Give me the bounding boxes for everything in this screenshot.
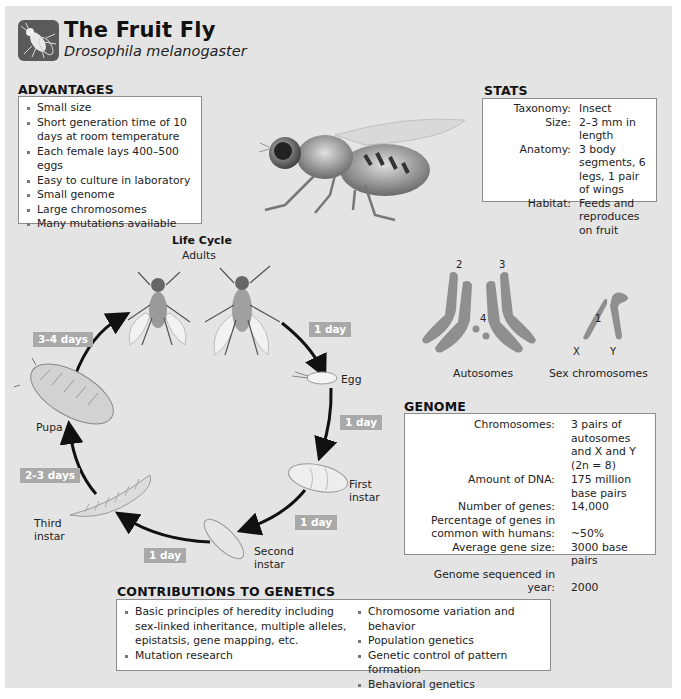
list-item: Each female lays 400–500 eggs — [27, 145, 193, 174]
genome-row-sequenced: Genome sequenced in year:2000 — [405, 568, 651, 595]
duration-badge-second-third: 1 day — [144, 548, 186, 563]
list-item: Basic principles of heredity including s… — [125, 605, 350, 649]
genome-box: Chromosomes:3 pairs of autosomes and X a… — [404, 413, 656, 555]
adult-fly-left — [128, 272, 190, 345]
chromosome-x-label: X — [573, 346, 580, 357]
page-title: The Fruit Fly — [64, 18, 216, 42]
list-item: Small size — [27, 101, 193, 116]
autosomes-label: Autosomes — [453, 367, 513, 380]
duration-badge-adults-egg: 1 day — [309, 322, 351, 337]
genome-row-chromosomes: Chromosomes:3 pairs of autosomes and X a… — [405, 418, 651, 472]
advantages-heading: ADVANTAGES — [18, 82, 114, 97]
fruit-fly-illustration — [225, 105, 465, 225]
stats-row-size: Size:2–3 mm in length — [487, 116, 652, 143]
list-item: Easy to culture in laboratory — [27, 174, 193, 189]
list-item: Mutation research — [125, 649, 350, 664]
chromosome-number-1: 1 — [595, 313, 601, 324]
chromosome-number-2: 2 — [456, 259, 462, 270]
adult-fly-right — [205, 266, 280, 355]
fruit-fly-icon — [18, 20, 59, 61]
egg-illustration — [292, 372, 337, 384]
genome-row-percentage: Percentage of genes in common with human… — [405, 514, 651, 541]
third-instar-illustration — [70, 475, 151, 516]
pupa-illustration — [14, 352, 123, 436]
chromosome-y-label: Y — [609, 346, 617, 357]
duration-badge-first-second: 1 day — [295, 515, 337, 530]
contributions-box: Basic principles of heredity including s… — [116, 599, 551, 671]
genome-heading: GENOME — [404, 399, 466, 414]
duration-badge-pupa-adults: 3-4 days — [33, 332, 93, 347]
first-instar-illustration — [286, 459, 350, 497]
genome-row-gene-size: Average gene size:3000 base pairs — [405, 541, 651, 568]
chromosome-number-3: 3 — [499, 259, 505, 270]
stats-row-anatomy: Anatomy:3 body segments, 6 legs, 1 pair … — [487, 143, 652, 197]
list-item: Behavioral genetics — [358, 678, 542, 693]
page-subtitle: Drosophila melanogaster — [64, 43, 247, 59]
stage-label-pupa: Pupa — [36, 421, 63, 434]
duration-badge-egg-first: 1 day — [340, 415, 382, 430]
genome-row-dna: Amount of DNA:175 million base pairs — [405, 473, 651, 500]
genome-row-genes: Number of genes:14,000 — [405, 500, 651, 514]
contributions-list-right: Chromosome variation and behavior Popula… — [358, 605, 542, 665]
chromosome-number-4: 4 — [480, 313, 486, 324]
contributions-heading: CONTRIBUTIONS TO GENETICS — [117, 584, 335, 599]
stage-label-second-instar: Second instar — [254, 545, 298, 571]
contributions-list-left: Basic principles of heredity including s… — [125, 605, 350, 665]
advantages-box: Small size Short generation time of 10 d… — [18, 96, 202, 224]
sex-chromosomes-label: Sex chromosomes — [549, 367, 648, 380]
list-item: Population genetics — [358, 634, 542, 649]
advantages-list: Small size Short generation time of 10 d… — [27, 101, 193, 232]
list-item: Chromosome variation and behavior — [358, 605, 542, 634]
stage-label-first-instar: First instar — [349, 478, 389, 504]
stats-heading: STATS — [484, 83, 528, 98]
stats-row-taxonomy: Taxonomy:Insect — [487, 102, 652, 116]
stage-label-egg: Egg — [341, 373, 362, 386]
list-item: Small genome — [27, 188, 193, 203]
stats-box: Taxonomy:Insect Size:2–3 mm in length An… — [482, 98, 657, 202]
stage-label-third-instar: Third instar — [34, 517, 70, 543]
duration-badge-third-pupa: 2-3 days — [20, 468, 80, 483]
stats-row-habitat: Habitat:Feeds and reproduces on fruit — [487, 197, 652, 238]
list-item: Short generation time of 10 days at room… — [27, 116, 193, 145]
list-item: Genetic control of pattern formation — [358, 649, 542, 678]
second-instar-illustration — [199, 514, 250, 565]
chromosome-diagram: 2 3 4 1 X Y — [390, 240, 680, 370]
list-item: Large chromosomes — [27, 203, 193, 218]
